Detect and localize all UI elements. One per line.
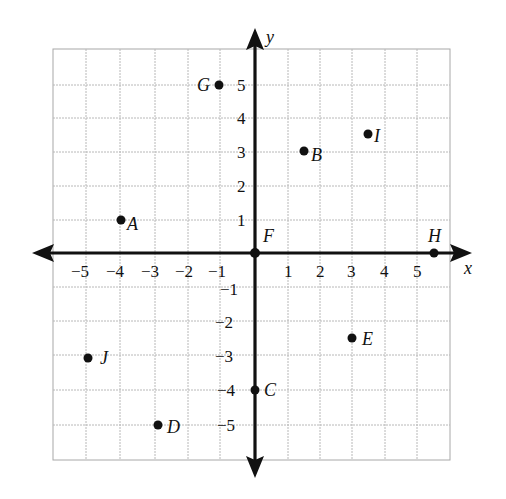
- y-tick-label: 2: [237, 177, 246, 196]
- x-tick-label: 4: [380, 262, 389, 281]
- point-label-h: H: [427, 226, 442, 246]
- x-tick-label: −1: [208, 262, 226, 281]
- y-tick-label: −1: [220, 280, 238, 299]
- point-label-c: C: [264, 380, 277, 400]
- point-a: [117, 216, 126, 225]
- x-tick-label: −4: [106, 262, 125, 281]
- point-d: [154, 421, 163, 430]
- point-h: [430, 249, 439, 258]
- point-label-b: B: [311, 145, 322, 165]
- point-label-g: G: [197, 75, 210, 95]
- x-tick-label: −3: [141, 262, 159, 281]
- point-j: [84, 354, 93, 363]
- point-e: [348, 334, 357, 343]
- y-tick-label: 3: [237, 143, 246, 162]
- x-tick-label: −2: [175, 262, 193, 281]
- x-tick-label: 3: [347, 262, 356, 281]
- coordinate-plane: y x −5 −4 −3 −2 −1 1 2 3 4 5 5 4 3 2 1 −…: [0, 0, 506, 499]
- y-tick-label: −2: [215, 313, 233, 332]
- y-tick-label: 5: [237, 76, 246, 95]
- y-tick-label: 1: [237, 211, 246, 230]
- point-f: [250, 248, 260, 258]
- x-axis-label: x: [463, 258, 472, 278]
- y-tick-label: −4: [217, 381, 236, 400]
- y-tick-labels: 5 4 3 2 1 −1 −2 −3 −4 −5: [215, 76, 246, 435]
- point-label-e: E: [361, 329, 373, 349]
- x-tick-label: 1: [284, 262, 293, 281]
- x-tick-label: 5: [413, 262, 422, 281]
- x-tick-label: −5: [71, 262, 89, 281]
- point-c: [251, 386, 260, 395]
- point-label-f: F: [262, 226, 275, 246]
- x-tick-label: 2: [316, 262, 325, 281]
- point-label-d: D: [166, 417, 180, 437]
- points: G A B I F H J D C E: [84, 75, 443, 437]
- x-tick-labels: −5 −4 −3 −2 −1 1 2 3 4 5: [71, 262, 422, 281]
- point-label-i: I: [373, 126, 381, 146]
- point-g: [215, 81, 224, 90]
- y-tick-label: −3: [215, 347, 233, 366]
- point-b: [300, 147, 309, 156]
- point-label-j: J: [100, 348, 109, 368]
- y-axis-label: y: [264, 27, 274, 47]
- y-tick-label: 4: [237, 109, 246, 128]
- point-i: [364, 130, 373, 139]
- point-label-a: A: [126, 214, 139, 234]
- y-tick-label: −5: [217, 416, 235, 435]
